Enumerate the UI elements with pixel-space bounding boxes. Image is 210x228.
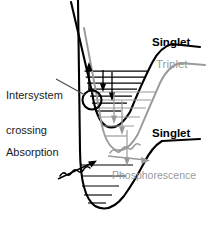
label-intersystem-crossing: Intersystem crossing	[6, 66, 63, 149]
label-intersystem-crossing-line2: crossing	[6, 125, 63, 137]
label-triplet: Triplet	[156, 58, 188, 70]
triplet-relaxation-arrows	[111, 93, 125, 135]
label-singlet-upper: Singlet	[152, 36, 190, 48]
label-singlet-lower: Singlet	[152, 127, 190, 139]
label-intersystem-crossing-line1: Intersystem	[6, 90, 63, 102]
label-absorption: Absorption	[6, 147, 59, 159]
label-phosphorescence: Phosphorescence	[112, 170, 196, 181]
